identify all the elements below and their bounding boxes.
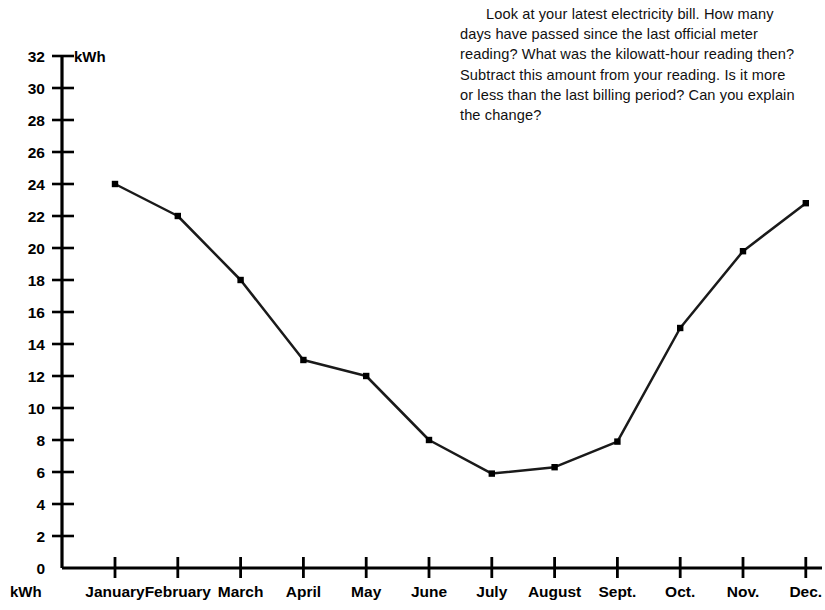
x-axis: JanuaryFebruaryMarchAprilMayJuneJulyAugu… xyxy=(62,557,822,600)
y-tick-label: 8 xyxy=(36,432,45,449)
y-axis: 02468101214161820222426283032 xyxy=(28,48,74,577)
x-tick-label: August xyxy=(528,583,581,600)
x-tick-label: Oct. xyxy=(665,583,695,600)
y-tick-label: 22 xyxy=(28,208,45,225)
data-point-marker xyxy=(426,437,432,443)
data-point-marker xyxy=(237,277,243,283)
y-tick-label: 32 xyxy=(28,48,45,65)
y-axis-unit-bottom: kWh xyxy=(10,583,42,600)
data-point-marker xyxy=(489,470,495,476)
y-tick-label: 12 xyxy=(28,368,45,385)
y-tick-label: 30 xyxy=(28,80,45,97)
x-tick-label: July xyxy=(476,583,507,600)
y-tick-label: 20 xyxy=(28,240,45,257)
x-tick-label: February xyxy=(145,583,212,600)
y-tick-label: 14 xyxy=(28,336,46,353)
y-tick-label: 4 xyxy=(36,496,45,513)
data-point-marker xyxy=(677,325,683,331)
x-tick-label: Sept. xyxy=(598,583,636,600)
y-tick-label: 24 xyxy=(28,176,46,193)
data-point-marker xyxy=(803,200,809,206)
data-point-marker xyxy=(300,357,306,363)
y-tick-label: 2 xyxy=(36,528,45,545)
x-tick-label: Dec. xyxy=(789,583,822,600)
chart-canvas: 02468101214161820222426283032 JanuaryFeb… xyxy=(0,0,825,610)
y-axis-unit-top: kWh xyxy=(74,48,106,65)
y-tick-label: 26 xyxy=(28,144,46,161)
x-tick-label: March xyxy=(218,583,264,600)
data-point-marker xyxy=(175,213,181,219)
x-tick-label: May xyxy=(351,583,382,600)
y-tick-label: 16 xyxy=(28,304,46,321)
data-point-marker xyxy=(740,248,746,254)
data-point-marker xyxy=(551,464,557,470)
data-point-marker xyxy=(614,438,620,444)
data-point-marker xyxy=(112,181,118,187)
usage-series xyxy=(112,181,809,477)
y-tick-label: 18 xyxy=(28,272,46,289)
y-tick-label: 28 xyxy=(28,112,46,129)
y-tick-label: 0 xyxy=(36,560,45,577)
x-tick-label: Nov. xyxy=(727,583,759,600)
y-tick-label: 10 xyxy=(28,400,45,417)
electricity-usage-line-chart: 02468101214161820222426283032 JanuaryFeb… xyxy=(0,0,825,610)
axis-unit-labels: kWhkWh xyxy=(10,48,106,600)
x-tick-label: June xyxy=(411,583,448,600)
data-point-marker xyxy=(363,373,369,379)
y-tick-label: 6 xyxy=(36,464,45,481)
x-tick-label: April xyxy=(286,583,321,600)
x-tick-label: January xyxy=(85,583,145,600)
